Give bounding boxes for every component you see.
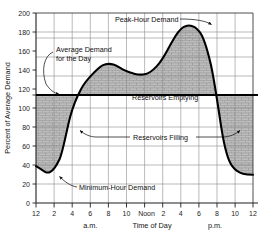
x-tick-10am: 10 [123, 210, 131, 217]
x-tick-2am: 2 [52, 210, 56, 217]
water-demand-chart: 200 180 160 140 120 100 80 60 40 20 0 [0, 0, 267, 236]
reservoirs-filling-label: Reservoirs Filling [133, 133, 188, 142]
y-tick-180: 180 [18, 29, 30, 36]
x-tick-4am: 4 [70, 210, 74, 217]
annotation-reservoirs-filling: Reservoirs Filling [80, 131, 240, 143]
y-tick-140: 140 [18, 67, 30, 74]
x-tick-2pm: 2 [162, 210, 166, 217]
y-tick-120: 120 [18, 86, 30, 93]
x-tick-10pm: 10 [231, 210, 239, 217]
y-tick-0: 0 [26, 200, 30, 207]
x-tick-8pm: 8 [215, 210, 219, 217]
peak-hour-label: Peak-Hour Demand [115, 15, 179, 24]
x-axis-tick-labels: 12 2 4 6 8 10 Noon 2 4 6 8 10 12 [32, 210, 257, 217]
x-tick-6am: 6 [88, 210, 92, 217]
x-tick-8am: 8 [106, 210, 110, 217]
average-demand-label-line2: for the Day [56, 54, 92, 63]
y-axis-tick-labels: 200 180 160 140 120 100 80 60 40 20 0 [18, 10, 30, 207]
reservoirs-emptying-label: Reservoirs Emptying [132, 93, 198, 102]
x-tick-marks [36, 203, 253, 208]
y-tick-100: 100 [18, 105, 30, 112]
x-tick-noon: Noon [138, 210, 155, 217]
average-demand-label-line1: Average Demand [56, 45, 112, 54]
x-axis-title: Time of Day [132, 221, 171, 230]
y-tick-40: 40 [22, 162, 30, 169]
annotation-peak-hour: Peak-Hour Demand [115, 15, 212, 25]
annotation-reservoirs-emptying: Reservoirs Emptying [132, 93, 198, 102]
chart-container: 200 180 160 140 120 100 80 60 40 20 0 [0, 0, 267, 236]
y-tick-200: 200 [18, 10, 30, 17]
y-tick-60: 60 [22, 143, 30, 150]
y-tick-160: 160 [18, 48, 30, 55]
x-tick-6pm: 6 [197, 210, 201, 217]
y-tick-20: 20 [22, 181, 30, 188]
y-tick-80: 80 [22, 124, 30, 131]
x-tick-4pm: 4 [179, 210, 183, 217]
pm-label: p.m. [208, 221, 222, 230]
x-tick-12pm: 12 [249, 210, 257, 217]
minimum-hour-label: Minimum-Hour Demand [79, 183, 155, 192]
grid [36, 13, 253, 203]
y-axis-title: Percent of Average Demand [3, 62, 12, 154]
am-label: a.m. [83, 221, 97, 230]
x-tick-12am: 12 [32, 210, 40, 217]
